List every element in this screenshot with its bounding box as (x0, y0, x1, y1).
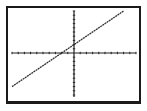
graph-plot (0, 0, 147, 111)
plotted-line (12, 11, 124, 87)
